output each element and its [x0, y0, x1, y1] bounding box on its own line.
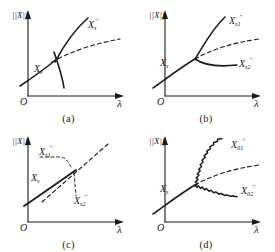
origin-label: O: [157, 96, 164, 107]
x-axis-label: λ: [117, 97, 122, 109]
x-axis-label: λ: [117, 223, 122, 235]
panel-b: ||X|| λ O Xs Xs1′′ Xs2′′ (b): [137, 0, 275, 126]
y-axis-label: ||X||: [12, 136, 27, 146]
label-X-s2-prime: Xs2′′: [239, 59, 253, 69]
label-X-s1-prime: Xs1′′: [229, 16, 243, 26]
panel-c-caption: (c): [0, 239, 137, 250]
lower-branch: [195, 59, 237, 66]
label-X-s: Xs: [31, 173, 40, 183]
label-X-s1-prime: Xs1′′: [39, 147, 53, 157]
lower-wavy-branch: [195, 185, 237, 197]
upper-branch: [195, 17, 225, 59]
label-X-s-prime: Xs′′: [88, 20, 99, 30]
y-axis-label: ||X||: [12, 10, 27, 20]
y-axis-label: ||X||: [149, 136, 164, 146]
panel-d: ||X|| λ O Xs X01′′ X02′′ (d): [137, 126, 275, 252]
vertical-branch: [54, 52, 64, 88]
origin-label: O: [20, 222, 27, 233]
label-X-s: Xs: [34, 64, 43, 74]
leader-line-s2: [74, 173, 76, 196]
label-X-02-prime: X02′′: [241, 186, 256, 196]
panel-d-caption: (d): [137, 239, 275, 250]
label-X-s: Xs: [160, 58, 169, 68]
bifurcation-figure-grid: ||X|| λ O Xs Xs′′ (a) ||X|| λ O Xs Xs1′′…: [0, 0, 275, 252]
y-axis-label: ||X||: [149, 10, 164, 20]
upper-emerging-branch: [55, 18, 88, 62]
origin-label: O: [157, 222, 164, 233]
origin-label: O: [20, 96, 27, 107]
label-X-s: Xs: [160, 184, 169, 194]
panel-b-caption: (b): [137, 113, 275, 124]
label-X-s2-prime: Xs2′′: [74, 196, 88, 206]
label-X-01-prime: X01′′: [231, 140, 246, 150]
x-axis-label: λ: [254, 97, 259, 109]
x-axis-label: λ: [254, 223, 259, 235]
leader-line-s1: [40, 157, 71, 167]
panel-a-caption: (a): [0, 113, 137, 124]
panel-c: ||X|| λ O Xs1′′ Xs Xs2′′ (c): [0, 126, 137, 252]
panel-a: ||X|| λ O Xs Xs′′ (a): [0, 0, 137, 126]
dashed-continuation-curve: [195, 165, 259, 185]
